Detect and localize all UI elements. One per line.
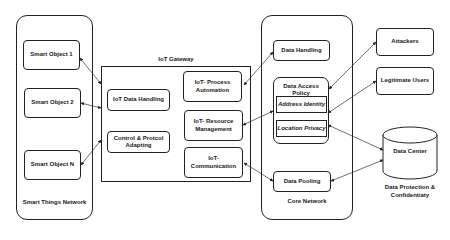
smart-things-network-label: Smart Things Network — [16, 199, 93, 205]
iot-communication[interactable]: IoT- Communication — [184, 147, 243, 178]
data-center-caption-text: Data Protection & Confidentiaty — [385, 184, 435, 198]
data-handling-label: Data Handling — [281, 47, 321, 54]
legitimate-users-box[interactable]: Legitimate Users — [376, 67, 434, 95]
smart-object-2-label: Smart Object 2 — [31, 99, 73, 106]
smart-object-1[interactable]: Smart Object 1 — [23, 40, 80, 70]
iot-data-handling-label: IoT Data Handling — [113, 96, 164, 103]
control-protocol-adapting-label: Control & Protcol Adapting — [108, 135, 169, 149]
smart-object-n[interactable]: Smart Object N — [24, 150, 81, 180]
iot-process-automation[interactable]: IoT- Process Automation — [183, 71, 242, 102]
address-identity-label: Address Identity — [278, 101, 325, 108]
smart-object-2[interactable]: Smart Object 2 — [24, 88, 81, 118]
data-pooling-label: Data Pooling — [284, 178, 321, 185]
smart-object-n-label: Smart Object N — [31, 161, 74, 168]
location-privacy[interactable]: Location Privacy — [276, 120, 327, 137]
iot-resource-management[interactable]: IoT- Resource Management — [184, 110, 243, 141]
data-center-caption: Data Protection & Confidentiaty — [372, 183, 448, 199]
data-center-label: Data Center — [383, 148, 437, 154]
core-network-label: Core Network — [261, 198, 353, 204]
attackers-label: Attackers — [391, 38, 418, 45]
iot-process-automation-label: IoT- Process Automation — [184, 79, 241, 93]
data-pooling[interactable]: Data Pooling — [273, 171, 331, 192]
legitimate-users-label: Legitimate Users — [381, 77, 429, 84]
data-handling[interactable]: Data Handling — [273, 40, 330, 61]
smart-object-1-label: Smart Object 1 — [30, 51, 72, 58]
control-protocol-adapting[interactable]: Control & Protcol Adapting — [107, 131, 170, 153]
iot-gateway-label: IoT Gateway — [101, 56, 251, 62]
iot-data-handling[interactable]: IoT Data Handling — [107, 89, 170, 111]
iot-communication-label: IoT- Communication — [185, 155, 242, 169]
attackers-box[interactable]: Attackers — [376, 28, 434, 56]
location-privacy-label: Location Privacy — [277, 125, 325, 132]
address-identity[interactable]: Address Identity — [276, 96, 327, 113]
iot-resource-management-label: IoT- Resource Management — [185, 118, 242, 132]
